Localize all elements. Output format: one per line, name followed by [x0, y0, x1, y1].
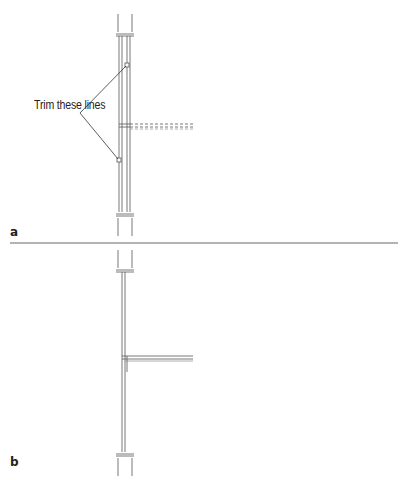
panel-b-drawing: [116, 250, 193, 476]
panel-a-drawing: [80, 14, 193, 236]
panel-label-b: b: [10, 455, 19, 469]
bottom-cap-a: [118, 218, 132, 236]
trim-callout-label: Trim these lines: [34, 98, 105, 112]
leader-line-bottom: [80, 113, 118, 159]
bottom-cap-b: [118, 458, 132, 476]
cad-diagram: [0, 0, 403, 480]
top-cap-b: [118, 250, 132, 268]
top-cap-a: [118, 14, 132, 32]
panel-label-a: a: [10, 225, 18, 239]
